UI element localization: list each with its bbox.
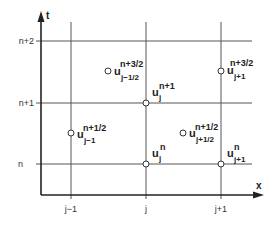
point-u-j-plus-1-n: [218, 161, 224, 167]
axes: [41, 20, 256, 195]
point-label-3: n+3/2 u j+1: [227, 58, 253, 81]
staggered-grid-diagram: t x j−1 j j+1 n+2 n+1 n n+1/2 u j−1 n+3/…: [0, 0, 277, 225]
point-label-4: n+1/2 u j+1/2: [189, 122, 218, 144]
subscript: j+1: [233, 72, 246, 81]
subscript: j: [158, 93, 161, 102]
variable: u: [189, 127, 196, 139]
variable: u: [152, 147, 159, 159]
subscript: j−1: [83, 136, 96, 145]
point-u-j-n: [143, 161, 149, 167]
variable: u: [114, 65, 121, 77]
x-tick-label-j: j: [144, 204, 147, 214]
variable: u: [77, 128, 84, 140]
point-u-j-n-plus-1: [143, 100, 149, 106]
x-tick-label-j-minus-1: j−1: [64, 204, 77, 214]
point-u-j-minus-half-n-plus-3-half: [105, 68, 111, 74]
point-u-j-plus-half-n-plus-half: [180, 130, 186, 136]
t-tick-label-n-plus-2: n+2: [19, 36, 34, 46]
point-label-5: n u j: [152, 142, 166, 163]
superscript: n: [234, 142, 240, 152]
subscript: j+1/2: [195, 135, 215, 144]
point-label-1: n+3/2 u j−1/2: [114, 59, 143, 82]
variable: u: [152, 86, 159, 98]
t-axis-label: t: [46, 10, 50, 21]
variable: u: [227, 147, 234, 159]
superscript: n: [160, 142, 166, 152]
superscript: n+3/2: [120, 59, 143, 69]
subscript: j−1/2: [120, 73, 140, 82]
x-axis-arrow-icon: [253, 192, 264, 199]
point-label-0: n+1/2 u j−1: [77, 123, 106, 145]
x-tick-label-j-plus-1: j+1: [214, 204, 227, 214]
x-axis-label: x: [256, 180, 262, 191]
point-label-6: n u j+1: [227, 142, 246, 164]
variable: u: [227, 64, 234, 76]
t-axis-arrow-icon: [38, 11, 45, 22]
superscript: n+1: [159, 81, 175, 91]
t-tick-label-n: n: [18, 159, 23, 169]
grid-vertical-lines: [71, 22, 221, 199]
subscript: j+1: [233, 155, 246, 164]
diagram-svg: t x j−1 j j+1 n+2 n+1 n n+1/2 u j−1 n+3/…: [0, 0, 277, 225]
superscript: n+1/2: [83, 123, 106, 133]
point-u-j-plus-1-n-plus-3-half: [218, 68, 224, 74]
point-label-2: n+1 u j: [152, 81, 175, 102]
point-u-j-minus-1-n-plus-half: [68, 130, 74, 136]
subscript: j: [158, 154, 161, 163]
t-tick-label-n-plus-1: n+1: [19, 98, 34, 108]
superscript: n+1/2: [195, 122, 218, 132]
